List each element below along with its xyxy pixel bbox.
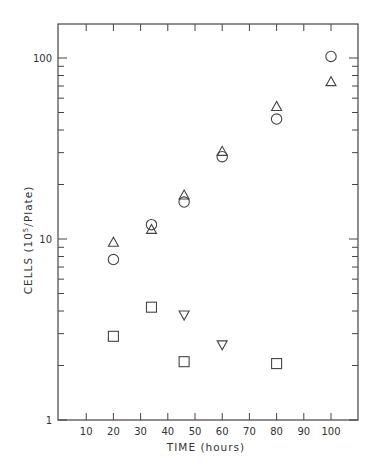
x-tick-label: 80 (270, 426, 283, 437)
triangle-up-point (326, 77, 336, 86)
y-axis-ticks: 110100 (33, 53, 358, 426)
x-tick-label: 70 (243, 426, 256, 437)
triangle-down-point (179, 311, 189, 320)
square-point (108, 331, 118, 341)
triangle-down-point (217, 341, 227, 350)
x-tick-label: 100 (321, 426, 340, 437)
square-point (272, 359, 282, 369)
triangle-up-point (272, 101, 282, 110)
x-tick-label: 50 (189, 426, 202, 437)
x-tick-label: 40 (161, 426, 174, 437)
x-axis-ticks: 102030405060708090100 (80, 24, 341, 437)
series-circles (108, 51, 336, 265)
circle-point (179, 197, 189, 207)
x-tick-label: 10 (80, 426, 93, 437)
x-axis-title: TIME (hours) (166, 441, 245, 453)
y-tick-label: 10 (39, 234, 52, 245)
y-tick-label: 100 (33, 53, 52, 64)
square-point (146, 302, 156, 312)
circle-point (108, 254, 118, 264)
x-tick-label: 30 (134, 426, 147, 437)
plot-frame (58, 24, 358, 420)
x-tick-label: 20 (107, 426, 120, 437)
circle-point (271, 114, 281, 124)
data-markers (108, 51, 336, 368)
chart: 102030405060708090100 110100 TIME (hours… (0, 0, 378, 465)
y-tick-label: 1 (46, 415, 52, 426)
triangle-up-point (108, 237, 118, 246)
plot-border (58, 24, 358, 420)
triangle-up-point (217, 146, 227, 155)
y-axis-title: CELLS (105/Plate) (22, 186, 34, 295)
x-tick-label: 60 (216, 426, 229, 437)
x-tick-label: 90 (297, 426, 310, 437)
circle-point (326, 51, 336, 61)
series-triangles-down (179, 311, 227, 350)
series-squares (108, 302, 281, 368)
square-point (179, 357, 189, 367)
